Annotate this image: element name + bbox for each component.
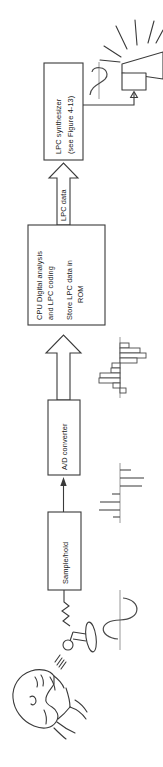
ad-converter-label: A/D converter — [60, 423, 69, 470]
lpc-synthesizer-label-line2: (see Figure 4-13) — [66, 96, 75, 154]
block-ad-converter: A/D converter — [48, 400, 80, 475]
block-sample-hold: Sample/hold — [48, 512, 81, 590]
cpu-label-line2: and LPC coding — [46, 266, 55, 320]
sine-waveform-icon-output — [90, 62, 107, 99]
talking-head-icon — [13, 655, 87, 739]
lpc-synthesizer-label-line1: LPC synthesizer — [54, 98, 63, 154]
speech-puffs-icon — [55, 655, 66, 669]
lpc-data-label: LPC data — [59, 189, 68, 221]
cpu-label-line4: ROM — [76, 285, 85, 303]
mic-to-sample-hold-wire — [62, 590, 70, 626]
cpu-label-line1: CPU Digital analysis — [35, 251, 44, 320]
sample-hold-label: Sample/hold — [61, 542, 70, 584]
lpc-system-block-diagram: LPC synthesizer (see Figure 4-13) LPC da… — [0, 0, 163, 767]
cpu-label-line3: Store LPC data in — [65, 260, 74, 320]
lpc-data-arrow: LPC data — [49, 163, 78, 225]
microphone-icon — [63, 621, 98, 652]
sine-waveform-icon-input — [103, 590, 137, 650]
synth-to-speaker-wire — [83, 92, 137, 106]
adc-to-cpu-arrow — [46, 335, 81, 400]
figure-diagram: LPC synthesizer (see Figure 4-13) LPC da… — [0, 0, 163, 767]
loudspeaker-icon — [100, 20, 163, 90]
sampled-signal-icon — [99, 463, 144, 523]
quantized-signal-icon — [99, 337, 146, 398]
sample-hold-to-adc-arrow — [60, 477, 66, 512]
block-lpc-synthesizer: LPC synthesizer (see Figure 4-13) — [44, 63, 83, 160]
block-cpu: CPU Digital analysis and LPC coding Stor… — [28, 225, 105, 325]
